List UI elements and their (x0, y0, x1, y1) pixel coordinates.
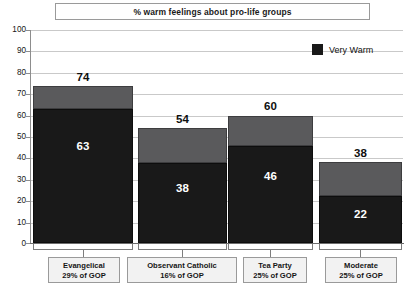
bar-moderate-warm-segment (319, 162, 402, 196)
bar-evangelical[interactable] (33, 86, 133, 243)
bar-value-total-evangelical: 74 (33, 71, 133, 83)
bar-value-very-warm-evangelical: 63 (33, 140, 133, 152)
category-label-tea-party[interactable]: Tea Party 25% of GOP (243, 257, 307, 283)
bar-value-total-observant-catholic: 54 (138, 113, 227, 125)
y-tick-label-60: 60 (0, 112, 26, 120)
category-name-moderate: Moderate (344, 261, 378, 271)
category-name-evangelical: Evangelical (63, 261, 105, 271)
bar-value-very-warm-tea-party: 46 (228, 170, 313, 182)
bar-evangelical-warm-segment (33, 86, 133, 110)
category-sublabel-moderate: 25% of GOP (339, 271, 382, 281)
category-sublabel-observant-catholic: 16% of GOP (160, 271, 203, 281)
legend-label-very-warm: Very Warm (329, 45, 373, 55)
bar-moderate[interactable] (319, 162, 402, 243)
bar-value-total-moderate: 38 (319, 147, 402, 159)
bar-tea-party-warm-segment (228, 116, 313, 146)
y-tick-label-10: 10 (0, 219, 26, 227)
y-tick-label-50: 50 (0, 133, 26, 141)
category-name-tea-party: Tea Party (258, 261, 292, 271)
chart-legend: Very Warm (312, 44, 373, 55)
bar-observant-catholic-very-warm-segment (138, 163, 227, 243)
category-name-observant-catholic: Observant Catholic (147, 261, 217, 271)
category-sublabel-tea-party: 25% of GOP (253, 271, 296, 281)
gridline-100 (30, 30, 403, 31)
chart-title-box: % warm feelings about pro-life groups (55, 3, 370, 20)
bar-observant-catholic-warm-segment (138, 128, 227, 162)
category-sublabel-evangelical: 29% of GOP (62, 271, 105, 281)
bar-tea-party-very-warm-segment (228, 146, 313, 243)
y-tick-label-20: 20 (0, 197, 26, 205)
y-tick-label-90: 90 (0, 47, 26, 55)
y-tick-label-30: 30 (0, 176, 26, 184)
bar-value-very-warm-observant-catholic: 38 (138, 182, 227, 194)
bar-value-very-warm-moderate: 22 (319, 208, 402, 220)
y-tick-label-0: 0 (0, 240, 26, 248)
y-tick-label-80: 80 (0, 69, 26, 77)
stem-tea-party (270, 250, 271, 257)
chart-container: % warm feelings about pro-life groups 10… (0, 0, 417, 285)
stem-moderate (360, 250, 361, 257)
stem-observant-catholic (182, 250, 183, 257)
category-label-evangelical[interactable]: Evangelical 29% of GOP (48, 257, 120, 283)
stem-evangelical (83, 250, 84, 257)
y-tick-label-70: 70 (0, 90, 26, 98)
legend-swatch-very-warm-icon (312, 44, 323, 55)
y-axis-line (30, 30, 31, 244)
bar-value-total-tea-party: 60 (228, 100, 313, 112)
plot-area: 74 54 60 38 63 38 46 22 (30, 30, 403, 243)
chart-title: % warm feelings about pro-life groups (133, 7, 291, 17)
y-tick-label-100: 100 (0, 26, 26, 34)
category-label-moderate[interactable]: Moderate 25% of GOP (325, 257, 397, 283)
bar-evangelical-very-warm-segment (33, 109, 133, 243)
category-label-observant-catholic[interactable]: Observant Catholic 16% of GOP (127, 257, 237, 283)
y-tick-label-40: 40 (0, 154, 26, 162)
y-axis-labels: 100 90 80 70 60 50 40 30 20 10 0 (0, 30, 26, 244)
